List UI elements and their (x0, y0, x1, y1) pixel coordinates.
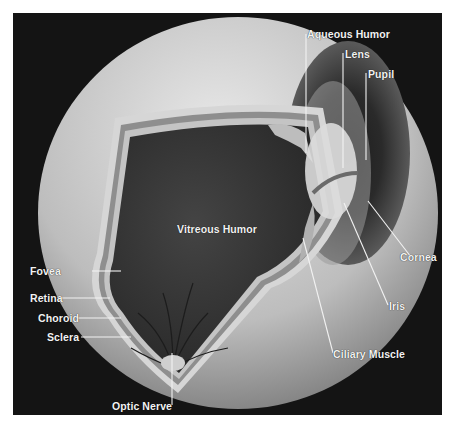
label-choroid: Choroid (38, 312, 79, 324)
label-vitreous-humor: Vitreous Humor (177, 223, 257, 235)
label-ciliary-muscle: Ciliary Muscle (333, 348, 405, 360)
label-lens: Lens (345, 48, 370, 60)
label-pupil: Pupil (368, 68, 394, 80)
label-aqueous-humor: Aqueous Humor (307, 28, 390, 40)
label-iris: Iris (389, 300, 405, 312)
label-fovea: Fovea (30, 265, 61, 277)
label-optic-nerve: Optic Nerve (112, 400, 172, 412)
eye-diagram: Aqueous Humor Lens Pupil Vitreous Humor … (13, 13, 442, 415)
lens (305, 123, 357, 219)
label-cornea: Cornea (400, 251, 437, 263)
label-retina: Retina (30, 292, 63, 304)
optic-disc (161, 355, 185, 371)
label-sclera: Sclera (47, 331, 79, 343)
